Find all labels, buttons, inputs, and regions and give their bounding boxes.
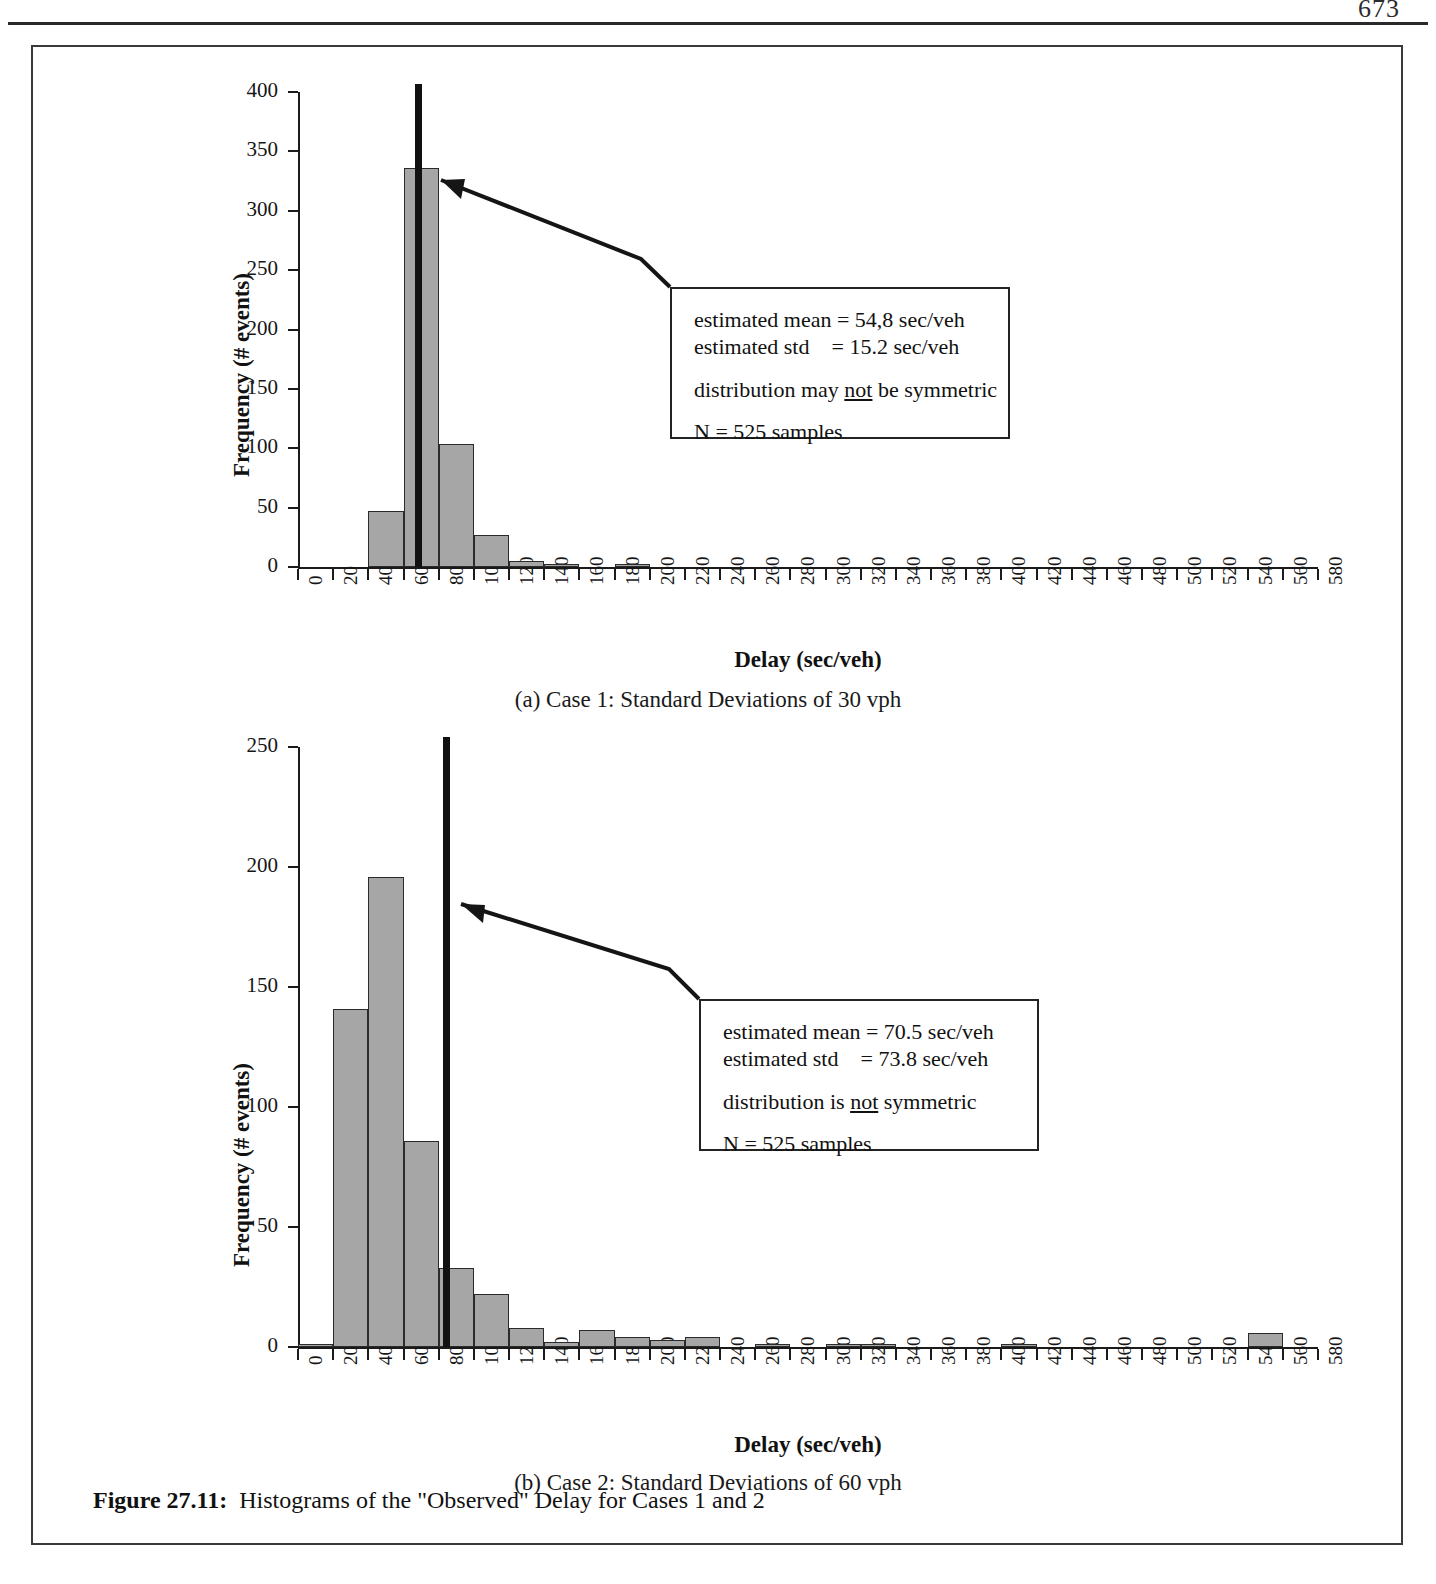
annotation-symmetry-a-post: be symmetric bbox=[872, 377, 997, 402]
histogram-bar bbox=[544, 564, 579, 567]
y-tick bbox=[288, 507, 298, 509]
histogram-bar bbox=[404, 1141, 439, 1347]
x-tick bbox=[1141, 1349, 1143, 1360]
annotation-box-case-1: estimated mean = 54,8 sec/veh estimated … bbox=[670, 287, 1010, 439]
histogram-bar bbox=[474, 1294, 509, 1347]
annotation-symmetry-a-pre: distribution may bbox=[694, 377, 844, 402]
x-tick bbox=[508, 569, 510, 580]
x-tick bbox=[930, 1349, 932, 1360]
y-tick-label: 150 bbox=[218, 973, 278, 998]
x-tick bbox=[1247, 569, 1249, 580]
x-tick-label: 380 bbox=[973, 557, 995, 586]
y-tick-label: 50 bbox=[218, 494, 278, 519]
x-tick-label: 440 bbox=[1079, 557, 1101, 586]
annotation-symmetry-a-not: not bbox=[844, 377, 872, 402]
x-tick-label: 320 bbox=[868, 557, 890, 586]
x-tick-label: 400 bbox=[1008, 557, 1030, 586]
x-tick bbox=[1000, 1349, 1002, 1360]
x-tick-label: 340 bbox=[903, 557, 925, 586]
x-tick bbox=[614, 569, 616, 580]
x-tick-label: 180 bbox=[622, 557, 644, 586]
x-tick bbox=[614, 1349, 616, 1360]
y-tick-label: 400 bbox=[218, 78, 278, 103]
x-tick bbox=[332, 1349, 334, 1360]
x-tick bbox=[1282, 569, 1284, 580]
x-tick bbox=[965, 569, 967, 580]
x-tick bbox=[860, 569, 862, 580]
x-tick-label: 420 bbox=[1044, 557, 1066, 586]
histogram-bar bbox=[439, 444, 474, 568]
y-tick bbox=[288, 447, 298, 449]
x-tick bbox=[719, 1349, 721, 1360]
x-tick bbox=[578, 1349, 580, 1360]
x-tick bbox=[367, 569, 369, 580]
x-tick bbox=[508, 1349, 510, 1360]
figure-caption-label: Figure 27.11: bbox=[93, 1487, 227, 1513]
annotation-std-a: estimated std = 15.2 sec/veh bbox=[694, 334, 988, 361]
x-tick-label: 200 bbox=[657, 557, 679, 586]
y-tick bbox=[288, 388, 298, 390]
x-tick bbox=[438, 569, 440, 580]
x-tick bbox=[543, 569, 545, 580]
x-tick bbox=[860, 1349, 862, 1360]
x-tick-label: 520 bbox=[1219, 557, 1241, 586]
x-tick bbox=[1071, 1349, 1073, 1360]
x-tick bbox=[297, 1349, 299, 1360]
x-tick-label: 260 bbox=[762, 1337, 784, 1366]
histogram-bar bbox=[861, 1344, 896, 1347]
x-tick-label: 240 bbox=[727, 1337, 749, 1366]
annotation-samples-a: N = 525 samples bbox=[694, 419, 988, 446]
y-tick bbox=[288, 986, 298, 988]
x-tick bbox=[403, 1349, 405, 1360]
x-tick-label: 360 bbox=[938, 1337, 960, 1366]
y-tick-label: 50 bbox=[218, 1213, 278, 1238]
y-tick bbox=[288, 566, 298, 568]
x-tick-label: 340 bbox=[903, 1337, 925, 1366]
annotation-mean-a: estimated mean = 54,8 sec/veh bbox=[694, 307, 988, 334]
annotation-box-case-2: estimated mean = 70.5 sec/veh estimated … bbox=[699, 999, 1039, 1151]
x-tick-label: 460 bbox=[1114, 1337, 1136, 1366]
x-tick-label: 460 bbox=[1114, 557, 1136, 586]
histogram-bar bbox=[333, 1009, 368, 1347]
x-axis-title-b: Delay (sec/veh) bbox=[298, 1432, 1318, 1458]
x-tick bbox=[1141, 569, 1143, 580]
y-tick bbox=[288, 329, 298, 331]
x-tick bbox=[1317, 1349, 1319, 1360]
x-tick bbox=[895, 569, 897, 580]
x-tick-label: 20 bbox=[340, 566, 362, 585]
x-tick bbox=[1317, 569, 1319, 580]
histogram-bar bbox=[685, 1337, 720, 1347]
x-tick bbox=[1176, 569, 1178, 580]
y-tick-label: 300 bbox=[218, 197, 278, 222]
x-tick-label: 540 bbox=[1255, 557, 1277, 586]
histogram-bar bbox=[298, 1344, 333, 1347]
histogram-bar bbox=[579, 1330, 614, 1347]
annotation-symmetry-b-not: not bbox=[850, 1089, 878, 1114]
figure-caption-text: Histograms of the "Observed" Delay for C… bbox=[239, 1487, 764, 1513]
x-tick bbox=[473, 1349, 475, 1360]
x-tick-label: 280 bbox=[797, 1337, 819, 1366]
histogram-bar bbox=[1001, 1344, 1036, 1347]
x-tick bbox=[367, 1349, 369, 1360]
x-tick-label: 80 bbox=[446, 566, 468, 585]
annotation-symmetry-a: distribution may not be symmetric bbox=[694, 377, 988, 404]
x-tick bbox=[825, 569, 827, 580]
x-tick bbox=[825, 1349, 827, 1360]
y-tick-label: 350 bbox=[218, 137, 278, 162]
y-axis-line bbox=[298, 747, 300, 1347]
x-tick bbox=[1036, 1349, 1038, 1360]
histogram-bar bbox=[1248, 1333, 1283, 1347]
x-tick bbox=[1282, 1349, 1284, 1360]
histogram-bar bbox=[509, 1328, 544, 1347]
x-tick-label: 500 bbox=[1184, 557, 1206, 586]
x-tick-label: 320 bbox=[868, 1337, 890, 1366]
x-tick-label: 300 bbox=[833, 557, 855, 586]
x-tick bbox=[403, 569, 405, 580]
annotation-symmetry-b-pre: distribution is bbox=[723, 1089, 850, 1114]
x-tick bbox=[543, 1349, 545, 1360]
x-tick bbox=[1036, 569, 1038, 580]
x-tick-label: 440 bbox=[1079, 1337, 1101, 1366]
figure-caption: Figure 27.11: Histograms of the "Observe… bbox=[93, 1487, 765, 1514]
x-tick-label: 220 bbox=[692, 557, 714, 586]
y-tick-label: 200 bbox=[218, 853, 278, 878]
